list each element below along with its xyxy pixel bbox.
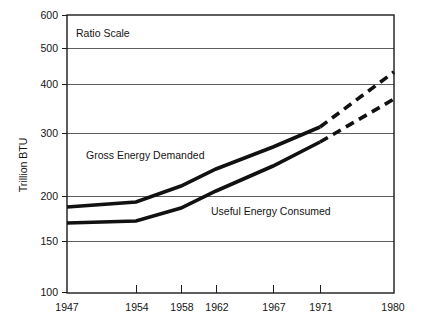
ytick-label-500: 500	[40, 42, 58, 54]
xtick-label-1967: 1967	[262, 301, 286, 313]
xtick-label-1954: 1954	[125, 301, 149, 313]
ratio-scale-annotation: Ratio Scale	[76, 27, 130, 39]
ytick-label-200: 200	[40, 190, 58, 202]
xtick-label-1947: 1947	[55, 301, 79, 313]
energy-demand-chart: 600 500 400 300 200 150 100 1947 1954 19…	[0, 0, 424, 331]
ytick-label-300: 300	[40, 127, 58, 139]
ytick-label-400: 400	[40, 78, 58, 90]
ytick-label-150: 150	[40, 235, 58, 247]
ytick-label-600: 600	[40, 9, 58, 21]
xtick-label-1980: 1980	[381, 301, 405, 313]
useful-energy-label: Useful Energy Consumed	[211, 205, 331, 217]
ytick-label-100: 100	[40, 286, 58, 298]
xtick-label-1971: 1971	[309, 301, 333, 313]
xtick-label-1958: 1958	[170, 301, 194, 313]
y-axis-title: Trillion BTU	[17, 138, 29, 192]
gross-energy-label: Gross Energy Demanded	[86, 149, 205, 161]
chart-background	[0, 0, 424, 331]
xtick-label-1962: 1962	[205, 301, 229, 313]
chart-canvas: 600 500 400 300 200 150 100 1947 1954 19…	[0, 0, 424, 331]
